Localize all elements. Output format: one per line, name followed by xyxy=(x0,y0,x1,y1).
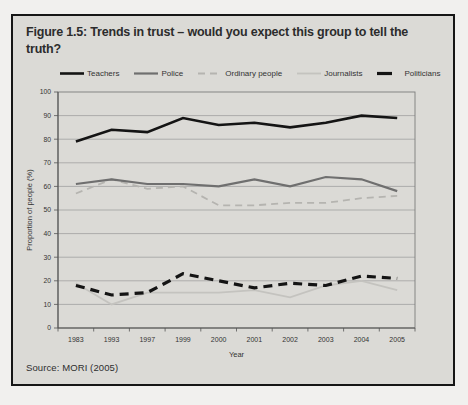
x-tick-label: 2003 xyxy=(318,336,334,343)
y-tick-label: 40 xyxy=(43,230,51,237)
source-note: Source: MORI (2005) xyxy=(26,362,118,373)
x-tick-label: 1997 xyxy=(139,336,155,343)
x-tick-labels: 1983199319971999200020012002200320042005 xyxy=(68,336,405,343)
y-tick-label: 10 xyxy=(43,301,51,308)
y-tick-label: 80 xyxy=(43,136,51,143)
figure-box: Figure 1.5: Trends in trust – would you … xyxy=(11,14,455,386)
x-tick-label: 1983 xyxy=(68,336,84,343)
x-tick-label: 1993 xyxy=(104,336,120,343)
y-tick-label: 0 xyxy=(47,324,51,331)
y-tick-label: 70 xyxy=(43,159,51,166)
x-tick-label: 2004 xyxy=(354,336,370,343)
y-tick-label: 50 xyxy=(43,206,51,213)
x-tick-label: 2002 xyxy=(282,336,298,343)
x-tick-label: 1999 xyxy=(175,336,191,343)
y-tick-label: 90 xyxy=(43,112,51,119)
y-tick-label: 60 xyxy=(43,183,51,190)
y-tick-label: 100 xyxy=(40,88,52,95)
page: { "figure": { "title": "Figure 1.5: Tren… xyxy=(0,0,468,405)
y-tick-label: 30 xyxy=(43,254,51,261)
gridlines xyxy=(58,116,415,305)
y-tick-labels: 0102030405060708090100 xyxy=(40,88,52,331)
trust-trend-chart: 0102030405060708090100198319931997199920… xyxy=(13,16,453,384)
x-tick-label: 2001 xyxy=(247,336,263,343)
x-tick-label: 2005 xyxy=(389,336,405,343)
y-axis-title: Proportion of people (%) xyxy=(25,169,34,251)
x-axis-title: Year xyxy=(229,350,245,359)
y-tick-label: 20 xyxy=(43,277,51,284)
series-line-teachers xyxy=(76,116,397,142)
x-tick-label: 2000 xyxy=(211,336,227,343)
series-line-police xyxy=(76,177,397,191)
